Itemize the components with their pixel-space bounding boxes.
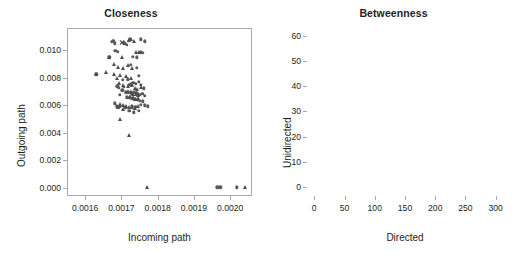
data-point-triangle (129, 76, 133, 80)
x-tick (230, 196, 231, 200)
y-tick (63, 188, 67, 189)
y-tick (63, 160, 67, 161)
y-tick-label: 60 (243, 31, 301, 41)
data-point-circle (141, 51, 144, 54)
data-point-triangle (116, 105, 120, 109)
x-tick-label: 200 (428, 203, 442, 213)
data-point-triangle (145, 185, 149, 189)
data-point-circle (142, 87, 145, 90)
data-point-triangle (127, 133, 131, 137)
data-point-triangle (121, 83, 125, 87)
y-tick (63, 50, 67, 51)
y-tick (303, 36, 307, 37)
y-axis-title-closeness: Outgoing path (16, 104, 27, 167)
data-point-triangle (137, 50, 141, 54)
x-tick-label: 250 (458, 203, 472, 213)
data-point-circle (235, 186, 238, 189)
plot-area-closeness (68, 29, 251, 195)
data-point-triangle (94, 72, 98, 76)
y-tick (63, 133, 67, 134)
data-point-circle (131, 55, 134, 58)
data-point-circle (113, 42, 116, 45)
data-point-triangle (116, 65, 120, 69)
x-tick (465, 196, 466, 200)
x-tick (405, 196, 406, 200)
data-point-circle (143, 94, 146, 97)
y-tick (63, 78, 67, 79)
x-tick-label: 100 (368, 203, 382, 213)
y-tick-label: 0.006 (3, 100, 61, 110)
y-tick-label: 0.000 (3, 183, 61, 193)
data-point-circle (116, 50, 119, 53)
y-tick-label: 0 (243, 182, 301, 192)
data-point-circle (125, 43, 128, 46)
data-point-triangle (120, 55, 124, 59)
x-axis-title-closeness: Incoming path (67, 232, 252, 243)
x-tick (375, 196, 376, 200)
data-point-triangle (130, 66, 134, 70)
x-tick (314, 196, 315, 200)
y-tick (303, 137, 307, 138)
y-tick (303, 162, 307, 163)
x-tick-label: 150 (398, 203, 412, 213)
data-point-circle (135, 56, 138, 59)
y-tick-label: 0.010 (3, 45, 61, 55)
y-tick (303, 86, 307, 87)
x-tick-label: 0 (312, 203, 317, 213)
data-point-circle (137, 109, 140, 112)
figure-container: Closeness 0.0000.0020.0040.0060.0080.010… (0, 0, 525, 258)
x-tick (496, 196, 497, 200)
y-tick-label: 50 (243, 56, 301, 66)
data-point-triangle (124, 74, 128, 78)
data-point-x (119, 40, 125, 46)
y-tick-label: 0.002 (3, 155, 61, 165)
x-tick-label: 0.0019 (181, 203, 207, 213)
panel-title-closeness: Closeness (0, 7, 262, 19)
data-point-circle (121, 78, 124, 81)
y-tick-label: 30 (243, 106, 301, 116)
panel-title-betweenness: Betweenness (262, 7, 525, 19)
data-point-circle (135, 66, 138, 69)
x-tick (435, 196, 436, 200)
x-tick-label: 0.0016 (72, 203, 98, 213)
data-point-circle (143, 40, 146, 43)
panel-closeness: Closeness 0.0000.0020.0040.0060.0080.010… (0, 0, 262, 258)
x-tick (345, 196, 346, 200)
data-point-circle (218, 186, 221, 189)
data-point-triangle (118, 117, 122, 121)
y-tick-label: 40 (243, 81, 301, 91)
data-point-circle (118, 93, 121, 96)
panel-betweenness: Betweenness 0102030405060050100150200250… (262, 0, 525, 258)
x-tick (194, 196, 195, 200)
y-axis-title-betweenness: Unidirected (282, 117, 293, 168)
x-tick-label: 0.0018 (145, 203, 171, 213)
x-tick-label: 0.0020 (217, 203, 243, 213)
y-tick (303, 61, 307, 62)
data-point-circle (137, 74, 140, 77)
data-point-circle (146, 104, 149, 107)
x-tick (121, 196, 122, 200)
x-tick-label: 50 (340, 203, 350, 213)
y-tick (63, 105, 67, 106)
x-tick-label: 300 (489, 203, 503, 213)
data-point-triangle (139, 85, 143, 89)
y-tick (303, 111, 307, 112)
data-point-triangle (121, 107, 125, 111)
data-point-triangle (121, 66, 125, 70)
x-tick (158, 196, 159, 200)
y-tick (303, 187, 307, 188)
data-point-triangle (136, 96, 140, 100)
data-point-triangle (104, 70, 108, 74)
data-point-triangle (132, 39, 136, 43)
x-tick-label: 0.0017 (108, 203, 134, 213)
data-point-circle (127, 109, 130, 112)
data-point-triangle (118, 73, 122, 77)
y-tick-label: 0.008 (3, 73, 61, 83)
data-point-triangle (136, 104, 140, 108)
x-axis-title-betweenness: Directed (307, 232, 503, 243)
plot-frame-closeness (67, 28, 252, 196)
y-tick-label: 0.004 (3, 128, 61, 138)
data-point-circle (139, 38, 142, 41)
x-tick (85, 196, 86, 200)
data-point-triangle (107, 55, 111, 59)
